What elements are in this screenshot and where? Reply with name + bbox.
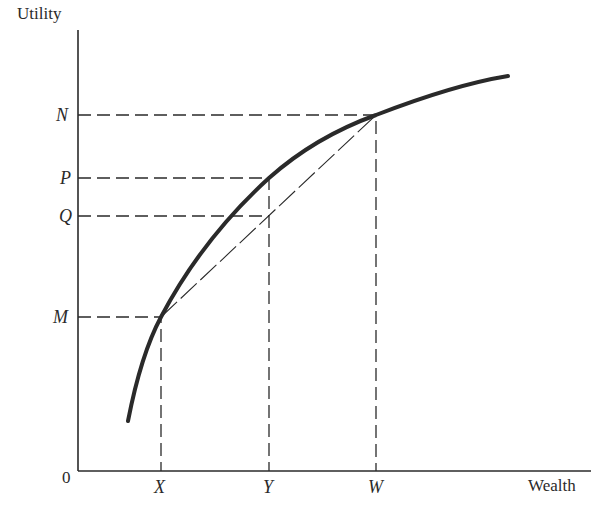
x-axis-label: Wealth (528, 476, 576, 495)
y-label-m: M (52, 307, 69, 327)
y-axis-label: Utility (17, 4, 62, 23)
chart-canvas: Utility Wealth 0 N P Q M X Y W (0, 0, 615, 514)
x-label-w: W (368, 477, 385, 497)
y-label-q: Q (59, 206, 72, 226)
x-label-y: Y (263, 477, 275, 497)
origin-label: 0 (62, 468, 71, 487)
utility-curve (128, 76, 508, 421)
utility-chart: Utility Wealth 0 N P Q M X Y W (0, 0, 615, 514)
guide-lines (78, 115, 376, 471)
guide-p-y (78, 178, 269, 471)
x-label-x: X (153, 477, 166, 497)
guide-n-w (78, 115, 376, 471)
y-label-p: P (59, 168, 71, 188)
y-label-n: N (55, 105, 69, 125)
